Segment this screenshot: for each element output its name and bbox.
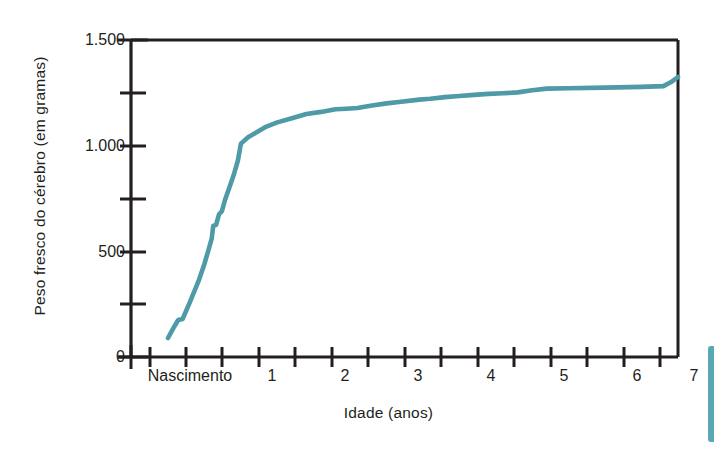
x-tick-label-3: 3 (414, 368, 423, 384)
x-axis-title-text: Idade (anos) (344, 404, 433, 422)
page-edge-sliver (708, 346, 714, 442)
x-tick-label-5: 5 (560, 368, 569, 384)
x-tick-label-2: 2 (341, 368, 350, 384)
chart-figure: Peso fresco do cérebro (em gramas) 1.500… (0, 0, 717, 454)
x-axis-tick-labels: Nascimento 1 2 3 4 5 6 7 (0, 0, 717, 454)
x-tick-label-nascimento: Nascimento (148, 368, 232, 384)
x-tick-label-6: 6 (633, 368, 642, 384)
x-tick-label-7: 7 (690, 368, 699, 384)
x-tick-label-4: 4 (487, 368, 496, 384)
x-axis-title: Idade (anos) (0, 404, 717, 422)
x-tick-label-1: 1 (268, 368, 277, 384)
